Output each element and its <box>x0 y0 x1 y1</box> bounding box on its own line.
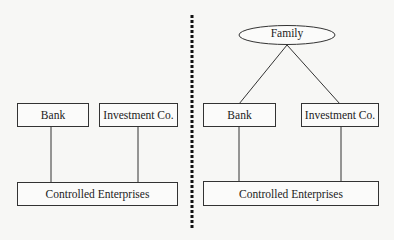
left-bank-label: Bank <box>41 109 65 121</box>
left-controlled-label: Controlled Enterprises <box>46 188 150 200</box>
right-bank-label: Bank <box>227 109 251 121</box>
edge-family-investment <box>287 45 340 104</box>
right-controlled-node: Controlled Enterprises <box>203 181 379 206</box>
right-investment-node: Investment Co. <box>301 103 379 127</box>
family-node: Family <box>247 27 327 39</box>
right-investment-label: Investment Co. <box>305 109 375 121</box>
left-bank-node: Bank <box>17 103 89 127</box>
right-bank-node: Bank <box>203 103 276 127</box>
left-investment-label: Investment Co. <box>103 109 173 121</box>
left-investment-node: Investment Co. <box>99 103 178 127</box>
edge-family-bank <box>239 45 287 104</box>
left-controlled-node: Controlled Enterprises <box>17 182 178 206</box>
right-controlled-label: Controlled Enterprises <box>239 188 343 200</box>
